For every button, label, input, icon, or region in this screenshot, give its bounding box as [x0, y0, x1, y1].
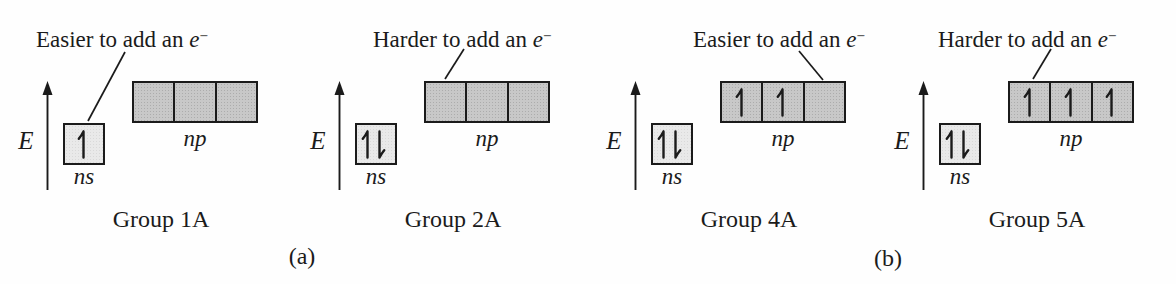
ns-orbital-box	[355, 123, 397, 165]
np-orbital-label: np	[1008, 126, 1134, 152]
np-orbital-cell	[803, 83, 844, 121]
electron-arrows	[943, 129, 972, 160]
electron-arrows	[1021, 87, 1034, 118]
np-orbital-cell	[1049, 83, 1090, 121]
electron-up-harpoon-icon	[774, 87, 787, 118]
np-orbital-cell	[507, 83, 548, 121]
np-orbital-cell	[426, 83, 465, 121]
charge-superscript: −	[543, 27, 552, 44]
np-orbital-cell	[722, 83, 761, 121]
electron-down-harpoon-icon	[671, 129, 684, 160]
np-orbital-cell	[134, 83, 173, 121]
np-orbital-cell	[215, 83, 256, 121]
ns-orbital-box	[63, 123, 105, 165]
np-orbital-cell	[173, 83, 214, 121]
np-orbital-row	[1008, 81, 1134, 123]
electron-up-harpoon-icon	[733, 87, 746, 118]
electron-up-harpoon-icon	[655, 129, 668, 160]
electron-symbol: e	[189, 27, 199, 52]
np-orbital-label: np	[424, 126, 550, 152]
np-orbital-cell	[1010, 83, 1049, 121]
np-orbital-row	[720, 81, 846, 123]
section-label-b: (b)	[858, 245, 918, 272]
np-orbital-row	[132, 81, 258, 123]
ns-orbital-label: ns	[350, 164, 402, 190]
ns-orbital-label: ns	[58, 164, 110, 190]
annotation-pointer-line	[796, 47, 827, 84]
energy-axis-label: E	[302, 127, 334, 155]
electron-arrows	[1062, 87, 1075, 118]
electron-up-harpoon-icon	[943, 129, 956, 160]
panel-group-5a: Harder to add an e− E ns np Group 5A	[876, 0, 1176, 284]
panel-group-4a: Easier to add an e− E ns np Group 4A	[588, 0, 888, 284]
energy-axis-label: E	[10, 127, 42, 155]
ns-orbital-label: ns	[646, 164, 698, 190]
energy-axis-label: E	[886, 127, 918, 155]
ns-orbital-box	[939, 123, 981, 165]
annotation-text: Harder to add an	[938, 27, 1098, 52]
electron-arrows	[655, 129, 684, 160]
np-orbital-cell	[1091, 83, 1132, 121]
np-orbital-cell	[761, 83, 802, 121]
annotation-easier: Easier to add an e−	[693, 23, 865, 52]
electron-up-harpoon-icon	[1103, 87, 1116, 118]
electron-symbol: e	[533, 27, 543, 52]
electron-up-harpoon-icon	[75, 129, 88, 160]
np-orbital-row	[424, 81, 550, 123]
charge-superscript: −	[857, 27, 866, 44]
np-orbital-label: np	[132, 126, 258, 152]
orbital-energy-figure: Easier to add an e− E ns np Group 1A Har…	[0, 0, 1176, 284]
group-label: Group 1A	[56, 206, 266, 233]
ns-orbital-label: ns	[934, 164, 986, 190]
annotation-harder: Harder to add an e−	[938, 23, 1116, 52]
electron-arrows	[75, 129, 88, 160]
energy-axis-label: E	[598, 127, 630, 155]
electron-up-harpoon-icon	[1021, 87, 1034, 118]
annotation-pointer-line	[442, 46, 468, 83]
panel-group-2a: Harder to add an e− E ns np Group 2A	[292, 0, 592, 284]
electron-arrows	[359, 129, 388, 160]
charge-superscript: −	[1108, 27, 1117, 44]
panel-group-1a: Easier to add an e− E ns np Group 1A	[0, 0, 300, 284]
annotation-pointer-line	[84, 48, 129, 126]
electron-down-harpoon-icon	[375, 129, 388, 160]
np-orbital-cell	[465, 83, 506, 121]
electron-up-harpoon-icon	[359, 129, 372, 160]
np-orbital-label: np	[720, 126, 846, 152]
group-label: Group 2A	[348, 206, 558, 233]
group-label: Group 5A	[932, 206, 1142, 233]
electron-up-harpoon-icon	[1062, 87, 1075, 118]
ns-orbital-box	[651, 123, 693, 165]
charge-superscript: −	[200, 27, 209, 44]
electron-symbol: e	[846, 27, 856, 52]
group-label: Group 4A	[644, 206, 854, 233]
electron-symbol: e	[1098, 27, 1108, 52]
electron-arrows	[733, 87, 746, 118]
electron-arrows	[1103, 87, 1116, 118]
electron-down-harpoon-icon	[959, 129, 972, 160]
electron-arrows	[774, 87, 787, 118]
section-label-a: (a)	[272, 243, 332, 270]
annotation-pointer-line	[1030, 46, 1055, 83]
